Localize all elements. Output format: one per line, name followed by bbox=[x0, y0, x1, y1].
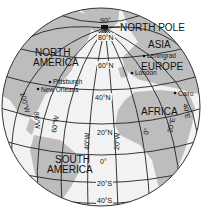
globe-diagram: 90° NORTH POLE NORTH AMERICA ASIA EUROPE… bbox=[0, 0, 203, 209]
south-america-label-2: AMERICA bbox=[47, 164, 93, 175]
lat-90-label: 90° bbox=[100, 17, 111, 24]
pittsburgh-label: Pittsburgh bbox=[53, 78, 83, 86]
north-pole-marker bbox=[101, 25, 108, 29]
new-orleans-dot bbox=[37, 88, 40, 91]
lon-40w-label: 40°W bbox=[83, 132, 91, 150]
africa-label: AFRICA bbox=[141, 106, 178, 117]
leningrad-dot bbox=[143, 55, 146, 58]
lat-40n-label: 40°N bbox=[95, 94, 111, 101]
north-pole-label: NORTH POLE bbox=[120, 22, 185, 33]
asia-label: ASIA bbox=[148, 39, 171, 50]
cairo-label: Cairo bbox=[178, 90, 194, 97]
north-america-label-2: AMERICA bbox=[33, 57, 79, 68]
new-orleans-label: New Orleans bbox=[41, 86, 79, 93]
lon-0-label: 0° bbox=[142, 127, 150, 135]
leningrad-label: Leningrad bbox=[147, 52, 176, 60]
london-label: London bbox=[135, 69, 157, 76]
lat-20n-label: 20°N bbox=[97, 129, 113, 136]
london-dot bbox=[131, 72, 134, 75]
lat-80n-label: 80°N bbox=[98, 34, 114, 41]
pittsburgh-dot bbox=[49, 81, 52, 84]
lon-20w-label: 20°W bbox=[113, 132, 121, 150]
lat-20s-label: 20°S bbox=[97, 180, 113, 187]
cairo-dot bbox=[174, 92, 177, 95]
globe-svg: 90° NORTH POLE NORTH AMERICA ASIA EUROPE… bbox=[0, 0, 203, 209]
lat-0-label: 0° bbox=[100, 158, 107, 165]
lat-40s-label: 40°S bbox=[97, 197, 113, 204]
lat-60n-label: 60°N bbox=[98, 62, 114, 69]
